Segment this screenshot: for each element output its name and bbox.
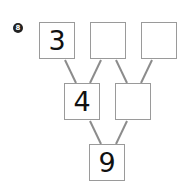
connector-line [90,60,101,83]
connector-line [116,121,127,144]
connector-line [141,60,152,83]
middle-box-1[interactable]: 4 [64,83,100,120]
connector-line [116,60,127,83]
connector-line [90,121,101,144]
top-box-3[interactable] [141,22,177,59]
connector-line [65,60,76,83]
middle-box-2[interactable] [115,83,151,120]
top-box-1[interactable]: 3 [39,22,75,59]
top-box-2[interactable] [90,22,126,59]
bottom-box[interactable]: 9 [89,144,125,181]
